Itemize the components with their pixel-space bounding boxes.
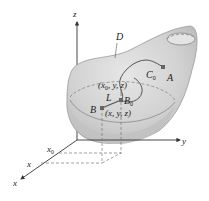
label-l: L [105, 92, 112, 103]
label-b: B [90, 104, 96, 115]
point-a [161, 65, 165, 69]
hole-ellipse [167, 33, 195, 45]
label-d: D [115, 31, 124, 42]
label-coord-b: (x, y, z) [105, 108, 131, 118]
label-x-tick: x [26, 159, 31, 169]
diagram-canvas: z y x x0 x D C0 A (x0, y, z) L B0 B (x, … [0, 0, 209, 201]
point-b [100, 106, 104, 110]
label-z: z [72, 9, 77, 19]
point-b0 [119, 98, 123, 102]
label-x0: x0 [46, 144, 54, 155]
label-a: A [166, 72, 174, 83]
label-y: y [181, 136, 186, 146]
label-x: x [12, 178, 17, 188]
label-coord-b0: (x0, y, z) [98, 80, 127, 91]
